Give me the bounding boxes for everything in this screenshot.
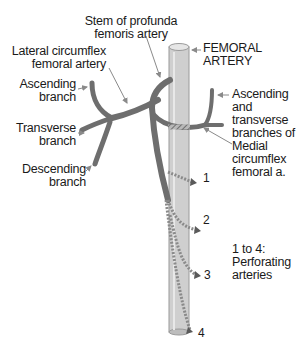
label-line: femoral a. xyxy=(232,166,295,179)
label-line: branch xyxy=(6,135,76,148)
label-medial-circumflex: Ascending and transverse branches of Med… xyxy=(232,88,295,179)
label-stem-profunda: Stem of profunda femoris artery xyxy=(66,15,196,41)
label-line: femoris artery xyxy=(66,28,196,41)
label-ascending-branch: Ascending branch xyxy=(10,78,76,104)
label-line: femoral artery xyxy=(6,58,106,71)
label-line: branch xyxy=(10,91,76,104)
label-line: arteries xyxy=(232,269,291,282)
label-line: ARTERY xyxy=(203,55,262,68)
perforating-number-4: 4 xyxy=(198,327,204,340)
label-line: branch xyxy=(10,176,86,189)
label-lateral-circumflex: Lateral circumflex femoral artery xyxy=(6,45,106,71)
perforating-number-3: 3 xyxy=(204,269,210,282)
label-descending-branch: Descending branch xyxy=(10,163,86,189)
label-transverse-branch: Transverse branch xyxy=(6,122,76,148)
label-perforating-legend: 1 to 4: Perforating arteries xyxy=(232,243,291,282)
perforating-number-2: 2 xyxy=(203,214,209,227)
perforating-number-1: 1 xyxy=(203,172,209,185)
label-femoral-artery: FEMORAL ARTERY xyxy=(203,42,262,68)
profunda-vessels xyxy=(82,80,222,200)
